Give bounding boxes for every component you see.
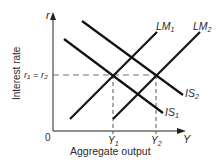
y-axis-arrow-icon [50,12,56,20]
origin-label: 0 [45,132,51,143]
interest-rate-level-label: r₁ = r₂ [24,69,48,80]
lm1-label: LM1 [156,20,175,33]
y1-label: Y1 [108,135,119,147]
y2-label: Y2 [151,135,162,147]
x-axis-title: Aggregate output [70,145,151,157]
is-lm-diagram: r Y 0 Interest rate Aggregate output r₁ … [0,0,221,167]
y-axis-symbol: r [46,9,51,21]
lm2-label: LM2 [193,20,212,33]
x-axis-symbol: Y [183,133,191,145]
is1-label: IS1 [165,106,179,119]
is2-label: IS2 [185,87,199,100]
y-axis-title: Interest rate [11,46,22,100]
